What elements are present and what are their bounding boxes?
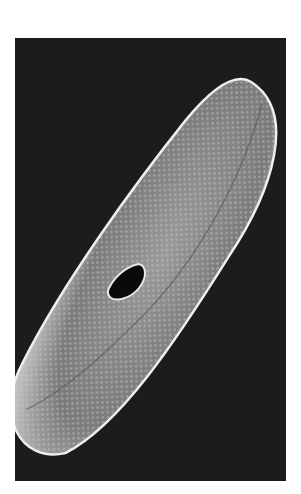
paramecium-illustration	[15, 38, 286, 481]
micrograph-frame	[15, 38, 286, 481]
cell-body	[15, 49, 286, 481]
